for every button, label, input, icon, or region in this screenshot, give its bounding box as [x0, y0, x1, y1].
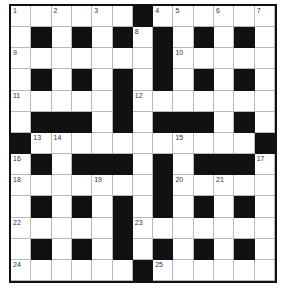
crossword-cell[interactable]: 20 — [173, 175, 193, 196]
crossword-cell[interactable] — [234, 133, 254, 154]
crossword-cell[interactable] — [133, 239, 153, 260]
crossword-cell[interactable] — [72, 218, 92, 239]
crossword-cell[interactable] — [52, 69, 72, 90]
crossword-cell[interactable] — [255, 69, 275, 90]
crossword-cell[interactable] — [234, 6, 254, 27]
crossword-cell[interactable]: 24 — [11, 260, 31, 281]
crossword-cell[interactable] — [92, 196, 112, 217]
crossword-cell[interactable]: 22 — [11, 218, 31, 239]
crossword-cell[interactable] — [234, 48, 254, 69]
crossword-cell[interactable] — [214, 91, 234, 112]
crossword-cell[interactable] — [72, 133, 92, 154]
crossword-cell[interactable] — [72, 175, 92, 196]
crossword-cell[interactable]: 2 — [52, 6, 72, 27]
crossword-cell[interactable] — [113, 260, 133, 281]
crossword-cell[interactable]: 18 — [11, 175, 31, 196]
crossword-cell[interactable]: 21 — [214, 175, 234, 196]
crossword-cell[interactable] — [173, 260, 193, 281]
crossword-cell[interactable]: 11 — [11, 91, 31, 112]
crossword-cell[interactable]: 6 — [214, 6, 234, 27]
crossword-cell[interactable] — [72, 260, 92, 281]
crossword-cell[interactable] — [234, 175, 254, 196]
crossword-cell[interactable] — [11, 239, 31, 260]
crossword-cell[interactable] — [194, 48, 214, 69]
crossword-cell[interactable]: 25 — [153, 260, 173, 281]
crossword-cell[interactable] — [133, 196, 153, 217]
crossword-cell[interactable] — [92, 48, 112, 69]
crossword-cell[interactable] — [133, 154, 153, 175]
crossword-cell[interactable] — [92, 260, 112, 281]
crossword-cell[interactable] — [214, 48, 234, 69]
crossword-cell[interactable] — [52, 175, 72, 196]
crossword-cell[interactable] — [133, 112, 153, 133]
crossword-cell[interactable] — [113, 133, 133, 154]
crossword-cell[interactable] — [234, 260, 254, 281]
crossword-cell[interactable] — [31, 48, 51, 69]
crossword-cell[interactable]: 19 — [92, 175, 112, 196]
crossword-cell[interactable] — [11, 196, 31, 217]
crossword-cell[interactable] — [234, 91, 254, 112]
crossword-cell[interactable]: 17 — [255, 154, 275, 175]
crossword-cell[interactable] — [234, 218, 254, 239]
crossword-cell[interactable]: 14 — [52, 133, 72, 154]
crossword-cell[interactable] — [92, 69, 112, 90]
crossword-cell[interactable] — [72, 91, 92, 112]
crossword-cell[interactable] — [173, 69, 193, 90]
crossword-cell[interactable] — [173, 239, 193, 260]
crossword-cell[interactable]: 16 — [11, 154, 31, 175]
crossword-cell[interactable]: 15 — [173, 133, 193, 154]
crossword-cell[interactable]: 23 — [133, 218, 153, 239]
crossword-cell[interactable]: 5 — [173, 6, 193, 27]
crossword-cell[interactable] — [173, 27, 193, 48]
crossword-cell[interactable] — [52, 91, 72, 112]
crossword-cell[interactable] — [52, 239, 72, 260]
crossword-cell[interactable] — [52, 260, 72, 281]
crossword-cell[interactable] — [214, 260, 234, 281]
crossword-cell[interactable] — [92, 239, 112, 260]
crossword-cell[interactable]: 4 — [153, 6, 173, 27]
crossword-cell[interactable] — [173, 154, 193, 175]
crossword-cell[interactable] — [194, 218, 214, 239]
crossword-cell[interactable] — [113, 6, 133, 27]
crossword-cell[interactable]: 10 — [173, 48, 193, 69]
crossword-cell[interactable] — [92, 133, 112, 154]
crossword-cell[interactable] — [11, 112, 31, 133]
crossword-cell[interactable] — [255, 239, 275, 260]
crossword-cell[interactable] — [52, 48, 72, 69]
crossword-cell[interactable] — [52, 154, 72, 175]
crossword-cell[interactable] — [113, 175, 133, 196]
crossword-cell[interactable] — [113, 48, 133, 69]
crossword-cell[interactable] — [31, 260, 51, 281]
crossword-cell[interactable] — [52, 218, 72, 239]
crossword-cell[interactable] — [194, 133, 214, 154]
crossword-cell[interactable] — [11, 69, 31, 90]
crossword-cell[interactable]: 12 — [133, 91, 153, 112]
crossword-cell[interactable] — [31, 6, 51, 27]
crossword-cell[interactable] — [153, 218, 173, 239]
crossword-cell[interactable] — [11, 27, 31, 48]
crossword-cell[interactable] — [72, 6, 92, 27]
crossword-cell[interactable]: 9 — [11, 48, 31, 69]
crossword-cell[interactable] — [173, 91, 193, 112]
crossword-cell[interactable] — [214, 69, 234, 90]
crossword-cell[interactable] — [255, 218, 275, 239]
crossword-cell[interactable] — [255, 112, 275, 133]
crossword-cell[interactable] — [92, 112, 112, 133]
crossword-cell[interactable] — [52, 196, 72, 217]
crossword-cell[interactable] — [255, 196, 275, 217]
crossword-cell[interactable] — [173, 196, 193, 217]
crossword-cell[interactable] — [31, 175, 51, 196]
crossword-cell[interactable] — [173, 218, 193, 239]
crossword-cell[interactable] — [214, 239, 234, 260]
crossword-cell[interactable] — [31, 218, 51, 239]
crossword-cell[interactable] — [255, 27, 275, 48]
crossword-cell[interactable] — [194, 175, 214, 196]
crossword-cell[interactable] — [214, 27, 234, 48]
crossword-cell[interactable] — [133, 69, 153, 90]
crossword-cell[interactable]: 8 — [133, 27, 153, 48]
crossword-cell[interactable]: 3 — [92, 6, 112, 27]
crossword-cell[interactable] — [31, 91, 51, 112]
crossword-cell[interactable] — [214, 196, 234, 217]
crossword-cell[interactable] — [255, 260, 275, 281]
crossword-cell[interactable] — [255, 175, 275, 196]
